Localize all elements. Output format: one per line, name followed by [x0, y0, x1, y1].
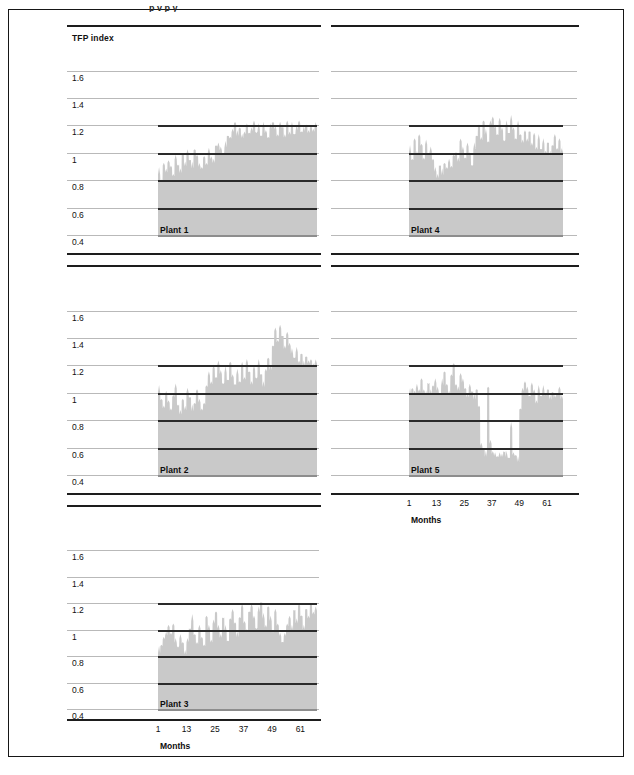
x-tick-label-plant-5-3: 37: [482, 498, 502, 508]
panel-bottom-rule-plant-4: [331, 253, 579, 255]
x-tick-label-plant-5-4: 49: [509, 498, 529, 508]
x-tick-label-plant-5-2: 25: [454, 498, 474, 508]
series-baseline-plant-2: [158, 475, 317, 477]
series-baseline-plant-1: [158, 235, 317, 237]
reference-line-plant-2-0_8: [158, 420, 317, 422]
series-baseline-plant-4: [409, 235, 563, 237]
panel-bottom-rule-plant-1: [67, 253, 321, 255]
reference-line-plant-1-0_6: [158, 208, 317, 210]
y-tick-label-plant-3-5: 0.6: [72, 685, 84, 695]
x-tick-label-plant-5-0: 1: [399, 498, 419, 508]
plant-label-plant-2: Plant 2: [160, 465, 189, 475]
y-tick-label-plant-1-0: 1.6: [72, 73, 84, 83]
y-tick-label-plant-2-6: 0.4: [72, 477, 84, 487]
series-baseline-plant-5: [409, 475, 563, 477]
reference-line-plant-2-1_2: [158, 365, 317, 367]
reference-line-plant-5-1_2: [409, 365, 563, 367]
reference-line-plant-5-0_8: [409, 420, 563, 422]
y-tick-label-plant-1-1: 1.4: [72, 100, 84, 110]
reference-line-plant-4-1_2: [409, 125, 563, 127]
figure-page-frame: p v p y TFP index1.61.41.210.80.60.4Plan…: [8, 9, 624, 757]
y-tick-label-plant-1-6: 0.4: [72, 237, 84, 247]
y-tick-label-plant-1-4: 0.8: [72, 182, 84, 192]
y-tick-label-plant-1-2: 1.2: [72, 127, 84, 137]
reference-line-plant-3-1_2: [158, 603, 317, 605]
y-tick-label-plant-2-3: 1: [72, 395, 77, 405]
x-tick-label-plant-5-1: 13: [427, 498, 447, 508]
plant-label-plant-4: Plant 4: [411, 225, 440, 235]
x-axis-rule-plant-3: [67, 719, 317, 721]
reference-line-plant-3-1: [158, 630, 317, 632]
y-tick-label-plant-1-5: 0.6: [72, 210, 84, 220]
plant-label-plant-3: Plant 3: [160, 699, 189, 709]
reference-line-plant-4-0_8: [409, 180, 563, 182]
x-tick-label-plant-3-1: 13: [176, 724, 196, 734]
x-axis-rule-plant-5: [397, 493, 563, 495]
y-tick-label-plant-1-3: 1: [72, 155, 77, 165]
x-axis-title-plant-3: Months: [160, 741, 190, 751]
panel-top-rule-plant-3: [67, 505, 321, 507]
y-tick-label-plant-2-4: 0.8: [72, 422, 84, 432]
reference-line-plant-1-1_2: [158, 125, 317, 127]
panel-top-rule-plant-2: [67, 265, 321, 267]
y-axis-title: TFP index: [72, 33, 114, 43]
y-tick-label-plant-3-3: 1: [72, 632, 77, 642]
plant-label-plant-5: Plant 5: [411, 465, 440, 475]
x-tick-label-plant-3-2: 25: [205, 724, 225, 734]
clipped-header-text: p v p y: [149, 3, 549, 12]
y-tick-label-plant-2-0: 1.6: [72, 313, 84, 323]
series-baseline-plant-3: [158, 709, 317, 711]
reference-line-plant-5-1: [409, 393, 563, 395]
y-tick-label-plant-3-2: 1.2: [72, 605, 84, 615]
y-tick-label-plant-3-0: 1.6: [72, 552, 84, 562]
reference-line-plant-4-0_6: [409, 208, 563, 210]
plant-label-plant-1: Plant 1: [160, 225, 189, 235]
panel-bottom-rule-plant-2: [67, 493, 321, 495]
y-tick-label-plant-2-2: 1.2: [72, 367, 84, 377]
reference-line-plant-1-1: [158, 153, 317, 155]
x-tick-label-plant-3-3: 37: [233, 724, 253, 734]
x-tick-label-plant-3-4: 49: [262, 724, 282, 734]
x-tick-label-plant-5-5: 61: [537, 498, 557, 508]
reference-line-plant-3-0_6: [158, 683, 317, 685]
reference-line-plant-5-0_6: [409, 448, 563, 450]
x-tick-label-plant-3-0: 1: [148, 724, 168, 734]
panel-top-rule-plant-1: [67, 25, 321, 27]
reference-line-plant-4-1: [409, 153, 563, 155]
y-tick-label-plant-2-1: 1.4: [72, 340, 84, 350]
x-tick-label-plant-3-5: 61: [290, 724, 310, 734]
reference-line-plant-2-1: [158, 393, 317, 395]
y-tick-label-plant-3-1: 1.4: [72, 579, 84, 589]
x-axis-title-plant-5: Months: [411, 515, 441, 525]
y-tick-label-plant-3-4: 0.8: [72, 658, 84, 668]
reference-line-plant-1-0_8: [158, 180, 317, 182]
panel-top-rule-plant-5: [331, 265, 579, 267]
y-tick-label-plant-2-5: 0.6: [72, 450, 84, 460]
panel-top-rule-plant-4: [331, 25, 579, 27]
reference-line-plant-3-0_8: [158, 656, 317, 658]
reference-line-plant-2-0_6: [158, 448, 317, 450]
